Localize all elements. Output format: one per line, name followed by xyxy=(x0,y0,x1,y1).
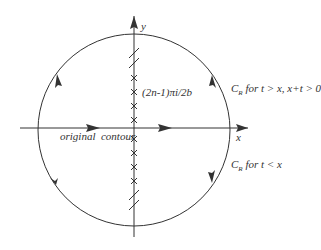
circle-arrow-icon xyxy=(209,75,216,88)
circle-arrow-icon xyxy=(208,170,215,183)
x-axis-label: x xyxy=(235,131,241,143)
upper-contour-label: CR for t > x, x+t > 0 xyxy=(231,82,321,97)
y-axis-label: y xyxy=(140,20,146,32)
lower-contour-label: CR for t < x xyxy=(231,158,282,173)
contour-arrow-icon xyxy=(158,124,172,132)
poles-label: (2n-1)πi/2b xyxy=(142,86,193,99)
original-contour-label: original contour xyxy=(60,130,136,142)
circle-arrow-icon xyxy=(55,74,62,88)
contour-diagram: y x (2n-1)πi/2b original contour CR for … xyxy=(0,0,321,250)
